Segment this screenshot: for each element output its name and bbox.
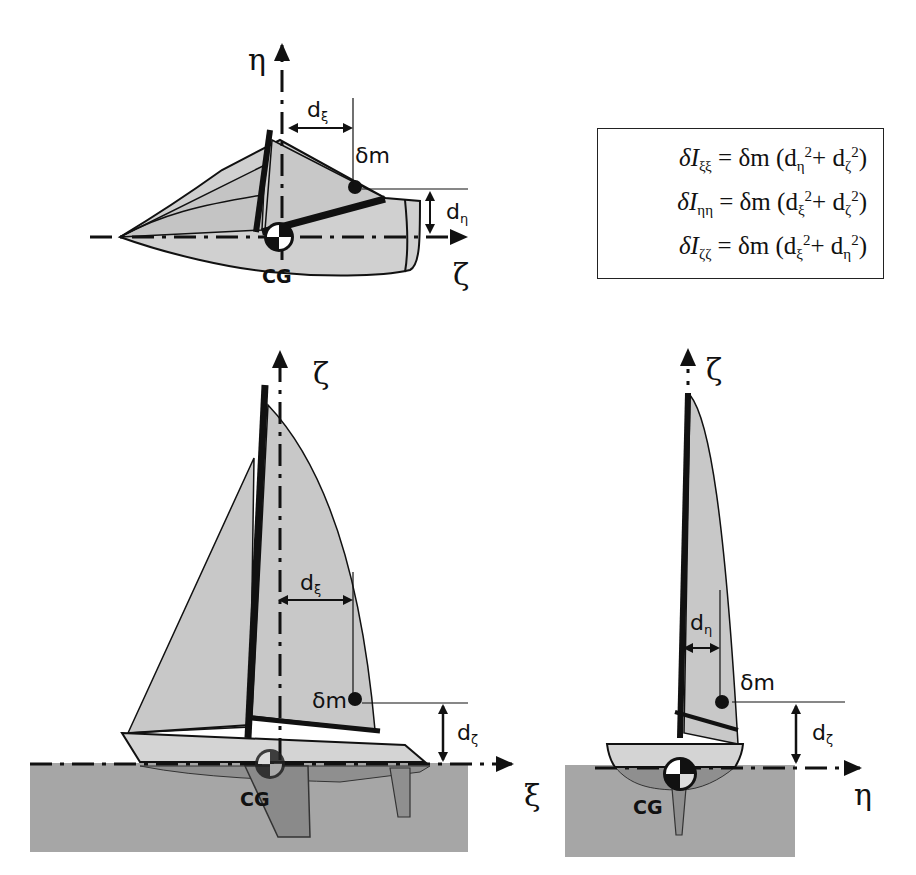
- inertia-formula-box: δIξξ = δm (dη2+ dζ2) δIηη = δm (dξ2+ dζ2…: [597, 128, 884, 279]
- cg-marker-top: [264, 222, 294, 252]
- axis-label-zeta-front: ζ: [706, 352, 722, 387]
- top-view-diagram: CG δm dξ dη η ζ: [90, 42, 469, 292]
- formula-xixi: δIξξ = δm (dη2+ dζ2): [679, 145, 867, 174]
- formula-etaeta: δIηη = δm (dξ2+ dζ2): [677, 189, 867, 218]
- dim-deta-top-label: dη: [446, 199, 468, 226]
- cg-label-top: CG: [262, 265, 292, 287]
- cg-marker-side: [255, 749, 285, 779]
- mass-label-side: δm: [312, 688, 347, 713]
- cg-label-front: CG: [633, 796, 663, 818]
- axis-label-zeta-top: ζ: [453, 257, 469, 292]
- jib-side: [128, 458, 254, 733]
- mass-point-top: [348, 180, 362, 194]
- mass-label-top: δm: [355, 143, 390, 168]
- cg-label-side: CG: [240, 788, 270, 810]
- mass-point-front: [715, 695, 729, 709]
- formula-zetazeta: δIζζ = δm (dξ2+ dη2): [679, 233, 867, 262]
- axis-label-eta-front: η: [854, 777, 872, 812]
- axis-label-zeta-side: ζ: [313, 356, 329, 391]
- sail-front: [684, 395, 738, 744]
- side-view-diagram: CG δm dξ dζ ζ ξ: [30, 352, 541, 852]
- dim-dxi-top-label: dξ: [307, 97, 328, 124]
- axis-label-eta-top: η: [248, 42, 266, 77]
- front-view-diagram: CG δm dη dζ ζ η: [565, 350, 872, 857]
- cg-marker-front: [663, 757, 697, 791]
- sailboat-inertia-figure: CG δm dξ dη η ζ: [0, 0, 916, 875]
- axis-label-xi-side: ξ: [524, 778, 541, 813]
- dim-dzeta-front-label: dζ: [812, 720, 833, 747]
- mass-point-side: [348, 692, 362, 706]
- mainsail-side: [252, 405, 375, 730]
- dim-dzeta-side-label: dζ: [457, 720, 478, 747]
- mass-label-front: δm: [740, 670, 775, 695]
